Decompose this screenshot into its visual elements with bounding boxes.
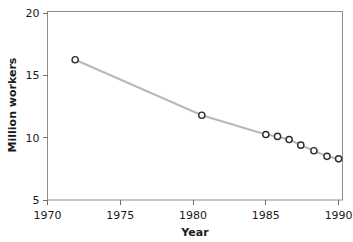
x-tick-label: 1985 — [252, 209, 280, 222]
data-point-marker — [286, 136, 292, 142]
x-tick-label: 1980 — [179, 209, 207, 222]
line-chart: 5101520 19701975198019851990 Year Millio… — [0, 0, 353, 242]
data-point-marker — [274, 133, 280, 139]
data-point-marker — [324, 153, 330, 159]
y-tick-label: 20 — [26, 7, 40, 20]
x-tick-label: 1975 — [106, 209, 134, 222]
chart-figure: 5101520 19701975198019851990 Year Millio… — [0, 0, 353, 242]
chart-background — [0, 0, 353, 242]
data-point-marker — [298, 142, 304, 148]
y-tick-label: 15 — [26, 69, 40, 82]
y-axis-title: Million workers — [6, 57, 19, 152]
y-tick-label: 5 — [33, 194, 40, 207]
x-axis-title: Year — [180, 226, 209, 239]
data-point-marker — [263, 131, 269, 137]
data-point-marker — [199, 112, 205, 118]
data-point-marker — [336, 156, 342, 162]
y-tick-label: 10 — [26, 132, 40, 145]
data-point-marker — [311, 148, 317, 154]
data-point-marker — [72, 57, 78, 63]
x-tick-label: 1970 — [34, 209, 62, 222]
x-tick-label: 1990 — [325, 209, 353, 222]
